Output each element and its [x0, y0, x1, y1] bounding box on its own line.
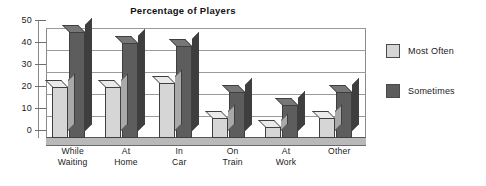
bar-side-face — [192, 32, 199, 131]
y-axis-tick — [35, 42, 46, 43]
plot-floor — [46, 138, 366, 146]
y-axis-tick-label: 30 — [22, 59, 32, 69]
bar-front-face — [159, 83, 175, 138]
bar-side-face — [352, 78, 359, 131]
gridline — [46, 28, 366, 29]
y-axis-tick — [35, 130, 46, 131]
bar-chart: Percentage of Players 01020304050 WhileW… — [0, 0, 486, 186]
y-axis-tick — [35, 20, 46, 21]
x-axis-label-line: While — [46, 146, 99, 157]
x-axis-label-line: Waiting — [46, 157, 99, 168]
gridline — [46, 50, 366, 51]
legend-item[interactable]: Sometimes — [386, 84, 486, 98]
bar-front-face — [212, 118, 228, 138]
bar-side-face — [121, 73, 128, 131]
x-axis-label: Other — [313, 146, 366, 157]
x-axis-label: AtWork — [259, 146, 312, 168]
bar — [319, 118, 335, 138]
y-axis-tick — [35, 64, 46, 65]
bar — [105, 87, 121, 138]
chart-legend: Most OftenSometimes — [386, 44, 486, 124]
axis-left-wall — [38, 20, 46, 138]
y-axis-tick-label: 10 — [22, 103, 32, 113]
y-axis-tick-label: 50 — [22, 15, 32, 25]
x-axis-label-line: On — [206, 146, 259, 157]
x-axis-label-line: Work — [259, 157, 312, 168]
legend-item[interactable]: Most Often — [386, 44, 486, 58]
x-axis-label: InCar — [153, 146, 206, 168]
legend-swatch — [386, 84, 400, 98]
bar-front-face — [265, 127, 281, 138]
legend-swatch — [386, 44, 400, 58]
x-axis-label-line: In — [153, 146, 206, 157]
y-axis-tick — [35, 108, 46, 109]
x-axis-label: WhileWaiting — [46, 146, 99, 168]
bar-front-face — [319, 118, 335, 138]
bar-side-face — [175, 69, 182, 131]
bar — [212, 118, 228, 138]
y-axis-tick-label: 20 — [22, 81, 32, 91]
bar — [159, 83, 175, 138]
y-axis-tick-label: 40 — [22, 37, 32, 47]
x-axis-label-line: Train — [206, 157, 259, 168]
y-axis-tick — [35, 86, 46, 87]
x-axis-labels: WhileWaitingAtHomeInCarOnTrainAtWorkOthe… — [46, 146, 366, 180]
bar-front-face — [105, 87, 121, 138]
gridline — [46, 94, 366, 95]
x-axis-label-line: Other — [313, 146, 366, 157]
x-axis-label-line: At — [259, 146, 312, 157]
bar-side-face — [85, 18, 92, 131]
x-axis-label-line: Home — [99, 157, 152, 168]
chart-title: Percentage of Players — [0, 5, 366, 16]
bar — [52, 87, 68, 138]
plot-area: 01020304050 — [46, 28, 366, 138]
x-axis-label: AtHome — [99, 146, 152, 168]
x-axis-label: OnTrain — [206, 146, 259, 168]
gridline — [46, 72, 366, 73]
bar-side-face — [245, 78, 252, 131]
bar-side-face — [138, 29, 145, 131]
bar — [265, 127, 281, 138]
legend-label: Sometimes — [408, 86, 455, 96]
x-axis-label-line: At — [99, 146, 152, 157]
y-axis-tick-label: 0 — [27, 125, 32, 135]
bar-front-face — [52, 87, 68, 138]
legend-label: Most Often — [408, 46, 454, 56]
x-axis-label-line: Car — [153, 157, 206, 168]
bar-side-face — [68, 73, 75, 131]
